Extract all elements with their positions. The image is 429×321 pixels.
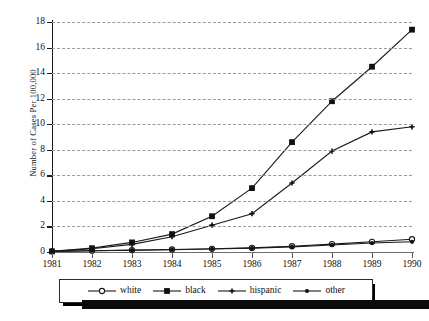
y-axis-label: 16 [36,43,46,53]
legend-key-small-cross-icon [217,285,247,297]
legend-key-small-filled-icon [292,285,322,297]
x-axis-label: 1983 [123,260,142,270]
y-axis-tick [47,48,52,49]
legend-item-white[interactable]: white [87,285,141,297]
y-axis-tick [47,201,52,202]
series-line-black [52,30,412,252]
y-axis-label: 14 [36,68,46,78]
y-axis-label: 6 [40,171,45,181]
x-axis-tick [252,253,253,258]
x-axis-label: 1981 [43,260,62,270]
data-point-black [249,185,255,191]
y-axis-label: 4 [40,196,45,206]
data-point-other [130,248,134,252]
x-axis-tick [172,253,173,258]
legend-label: hispanic [250,286,282,296]
y-axis-tick [47,124,52,125]
x-axis-tick [52,253,53,258]
x-axis-tick [332,253,333,258]
legend-item-hispanic[interactable]: hispanic [217,285,282,297]
plot-area: 024681012141618 [52,22,412,252]
series-line-white [52,239,412,251]
x-axis-label: 1987 [283,260,302,270]
gridline [52,73,412,74]
y-axis-label: 18 [36,17,46,27]
y-axis-label: 12 [36,94,46,104]
gridline [52,22,412,23]
legend-label: other [325,286,345,296]
x-axis-tick [92,253,93,258]
x-axis-tick [132,253,133,258]
gridline [52,124,412,125]
x-axis-tick [372,253,373,258]
x-axis-labels: 1981198219831984198519861987198819891990 [52,253,414,273]
y-axis-label: 0 [40,247,45,257]
data-point-other [290,245,294,249]
series-line-hispanic [52,127,412,252]
x-axis-label: 1986 [243,260,262,270]
x-axis-label: 1984 [163,260,182,270]
y-axis-label: 8 [40,145,45,155]
series-layer [52,22,412,252]
y-axis-tick [47,99,52,100]
legend-item-black[interactable]: black [152,285,206,297]
data-point-other [210,247,214,251]
x-axis-tick [212,253,213,258]
data-point-other [410,240,414,244]
legend-label: white [120,286,141,296]
gridline [52,48,412,49]
gridline [52,175,412,176]
legend-key-filled-square-icon [152,285,182,297]
y-axis-tick [47,150,52,151]
x-axis-tick [412,253,413,258]
x-axis-label: 1990 [403,260,422,270]
legend-item-other[interactable]: other [292,285,345,297]
figure: Number of Cases Per 100,000 024681012141… [0,0,429,321]
legend-key-open-circle-icon [87,285,117,297]
x-axis-label: 1985 [203,260,222,270]
x-axis-label: 1989 [363,260,382,270]
gridline [52,226,412,227]
data-point-other [370,241,374,245]
data-point-other [250,246,254,250]
data-point-other [330,243,334,247]
y-axis-tick [47,22,52,23]
data-point-black [369,64,375,70]
legend-label: black [185,286,206,296]
x-axis-tick [292,253,293,258]
y-axis-tick [47,175,52,176]
y-axis-tick [47,226,52,227]
y-axis-label: 2 [40,222,45,232]
gridline [52,150,412,151]
data-point-black [409,27,415,33]
caption-bar [82,300,429,309]
data-point-black [289,139,295,145]
gridline [52,99,412,100]
data-point-hispanic [369,129,374,134]
data-point-other [170,248,174,252]
data-point-black [209,213,215,219]
y-axis-tick [47,73,52,74]
x-axis-label: 1988 [323,260,342,270]
y-axis-label: 10 [36,119,46,129]
x-axis-label: 1982 [83,260,102,270]
gridline [52,201,412,202]
